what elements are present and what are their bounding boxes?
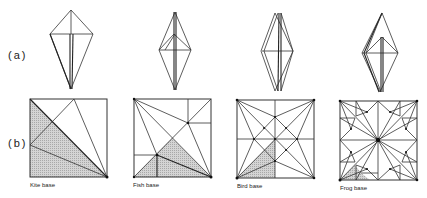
- row-label-b: (b): [8, 137, 27, 149]
- frog-crease-pattern: [339, 100, 419, 182]
- fish-folded-shape: [159, 12, 191, 90]
- kite-folded-shape: [50, 10, 93, 89]
- kite-crease-pattern: [30, 99, 109, 179]
- caption-bird-base: Bird base: [237, 183, 262, 189]
- caption-frog-base: Frog base: [340, 185, 367, 191]
- caption-kite-base: Kite base: [30, 182, 55, 188]
- caption-fish-base: Fish base: [133, 182, 159, 188]
- origami-bases-diagram: [0, 0, 427, 198]
- row-label-a: (a): [8, 49, 27, 61]
- frog-folded-shape: [362, 13, 398, 92]
- fish-crease-pattern: [133, 98, 213, 179]
- bird-folded-shape: [261, 13, 293, 91]
- bird-crease-pattern: [236, 99, 316, 180]
